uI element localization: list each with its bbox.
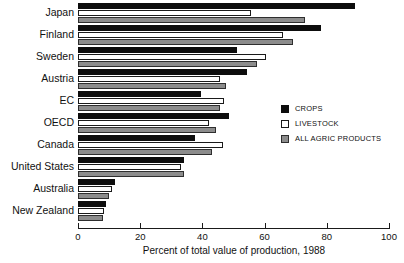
x-axis-tick-label: 100 <box>374 231 404 242</box>
legend-label: ALL AGRIC PRODUCTS <box>295 134 381 144</box>
bar-livestock <box>78 186 112 192</box>
bar-allagric <box>78 149 212 155</box>
bar-allagric <box>78 17 305 23</box>
bar-crops <box>78 25 321 31</box>
y-axis-label: OECD <box>2 117 74 128</box>
y-axis-label: Canada <box>2 139 74 150</box>
x-axis-tick <box>389 223 390 228</box>
x-axis-line <box>78 228 390 229</box>
bar-allagric <box>78 105 220 111</box>
bar-livestock <box>78 10 251 16</box>
bar-livestock <box>78 54 266 60</box>
y-axis-label: Finland <box>2 29 74 40</box>
y-axis-category-labels: JapanFinlandSwedenAustriaECOECDCanadaUni… <box>0 0 74 222</box>
bar-crops <box>78 69 247 75</box>
bar-allagric <box>78 83 226 89</box>
x-axis-tick <box>78 223 79 228</box>
bar-crops <box>78 201 106 207</box>
x-axis-tick <box>140 223 141 228</box>
y-axis-label: United States <box>2 161 74 172</box>
legend-item: CROPS <box>281 103 401 115</box>
bar-crops <box>78 179 115 185</box>
x-axis-tick-label: 60 <box>250 231 280 242</box>
legend-swatch-allagric <box>281 135 289 143</box>
bar-allagric <box>78 127 216 133</box>
bar-group <box>78 2 389 24</box>
legend-item: LIVESTOCK <box>281 118 401 130</box>
bar-livestock <box>78 142 223 148</box>
bar-crops <box>78 157 184 163</box>
x-axis-tick-label: 0 <box>63 231 93 242</box>
x-axis-tick-label: 80 <box>312 231 342 242</box>
chart-legend: CROPSLIVESTOCKALL AGRIC PRODUCTS <box>281 103 401 148</box>
bar-crops <box>78 113 229 119</box>
y-axis-label: Sweden <box>2 51 74 62</box>
legend-swatch-livestock <box>281 120 289 128</box>
y-axis-label: Japan <box>2 7 74 18</box>
bar-livestock <box>78 76 220 82</box>
bar-livestock <box>78 208 104 214</box>
bar-crops <box>78 47 237 53</box>
x-axis-tick-label: 40 <box>187 231 217 242</box>
y-axis-label: New Zealand <box>2 205 74 216</box>
bar-livestock <box>78 120 209 126</box>
bar-group <box>78 178 389 200</box>
bar-crops <box>78 91 201 97</box>
bar-group <box>78 200 389 222</box>
x-axis-tick <box>202 223 203 228</box>
bar-allagric <box>78 215 103 221</box>
legend-swatch-crops <box>281 105 289 113</box>
bar-livestock <box>78 98 224 104</box>
x-axis-tick <box>265 223 266 228</box>
bar-group <box>78 24 389 46</box>
bar-allagric <box>78 61 257 67</box>
legend-label: CROPS <box>295 104 323 114</box>
y-axis-label: Austria <box>2 73 74 84</box>
x-axis-title: Percent of total value of production, 19… <box>78 245 390 257</box>
y-axis-label: EC <box>2 95 74 106</box>
bar-allagric <box>78 193 109 199</box>
bar-group <box>78 46 389 68</box>
x-axis-tick-label: 20 <box>125 231 155 242</box>
bar-crops <box>78 3 355 9</box>
bar-allagric <box>78 171 184 177</box>
bar-group <box>78 156 389 178</box>
bar-crops <box>78 135 195 141</box>
bar-group <box>78 68 389 90</box>
bar-chart: JapanFinlandSwedenAustriaECOECDCanadaUni… <box>0 0 404 263</box>
legend-label: LIVESTOCK <box>295 119 339 129</box>
bar-livestock <box>78 32 283 38</box>
bar-livestock <box>78 164 181 170</box>
x-axis-tick <box>327 223 328 228</box>
bar-allagric <box>78 39 293 45</box>
y-axis-label: Australia <box>2 183 74 194</box>
legend-item: ALL AGRIC PRODUCTS <box>281 133 401 145</box>
